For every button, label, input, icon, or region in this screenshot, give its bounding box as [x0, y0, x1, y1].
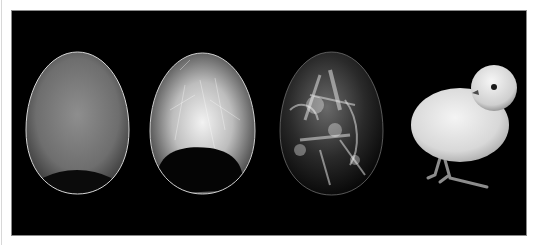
egg-sequence-illustration: [0, 0, 536, 245]
egg-stage-1: [20, 45, 135, 220]
egg-stage-3: [275, 45, 390, 200]
hatched-chick: [411, 65, 517, 187]
egg-stage-2: [145, 45, 260, 200]
